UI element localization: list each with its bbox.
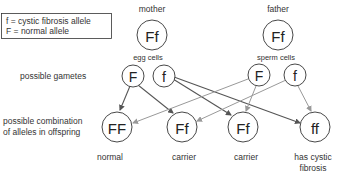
arrow-eggF-to-Ff1 bbox=[138, 85, 173, 113]
offspring-Ff-1-label: carrier bbox=[172, 152, 196, 162]
svg-text:f: f bbox=[293, 68, 297, 84]
svg-text:FF: FF bbox=[108, 120, 126, 137]
mother-node: mother Ff egg cells bbox=[133, 4, 167, 62]
arrow-spermf-to-ff bbox=[298, 86, 311, 111]
legend-box: f = cystic fibrosis allele F = normal al… bbox=[2, 14, 112, 39]
svg-text:f: f bbox=[162, 69, 166, 85]
arrow-eggF-to-FF bbox=[120, 86, 130, 110]
offspring-Ff-2-label: carrier bbox=[234, 152, 258, 162]
sperm-gamete-F: F bbox=[248, 64, 270, 86]
mother-label: mother bbox=[139, 4, 166, 14]
arrow-spermF-to-Ff2 bbox=[246, 86, 256, 111]
mother-genotype: Ff bbox=[145, 28, 159, 45]
father-genotype: Ff bbox=[271, 28, 285, 45]
egg-cells-label: egg cells bbox=[133, 53, 163, 62]
egg-gamete-F: F bbox=[122, 65, 144, 87]
svg-text:F: F bbox=[255, 68, 264, 84]
offspring-Ff-1: Ff carrier bbox=[167, 112, 197, 162]
offspring-Ff-2: Ff carrier bbox=[228, 112, 258, 162]
egg-arrows bbox=[120, 77, 300, 123]
father-node: father Ff sperm cells bbox=[257, 4, 295, 62]
legend-line-dominant: F = normal allele bbox=[6, 26, 69, 36]
offspring-FF: FF normal bbox=[97, 112, 132, 162]
punnett-inheritance-diagram: f = cystic fibrosis allele F = normal al… bbox=[0, 0, 337, 177]
sperm-gamete-f: f bbox=[284, 64, 306, 86]
row-label-offspring-line2: of alleles in offspring bbox=[3, 127, 81, 137]
offspring-ff-label-line2: fibrosis bbox=[300, 163, 327, 173]
row-label-gametes: possible gametes bbox=[20, 71, 86, 81]
offspring-ff: ff has cystic fibrosis bbox=[294, 112, 332, 173]
svg-text:Ff: Ff bbox=[236, 120, 250, 137]
offspring-ff-label-line1: has cystic bbox=[294, 152, 332, 162]
legend-line-recessive: f = cystic fibrosis allele bbox=[6, 16, 91, 26]
svg-text:Ff: Ff bbox=[175, 120, 189, 137]
sperm-cells-label: sperm cells bbox=[257, 53, 295, 62]
svg-text:ff: ff bbox=[311, 120, 320, 137]
offspring-FF-label: normal bbox=[97, 152, 123, 162]
row-label-offspring-line1: possible combination bbox=[3, 116, 83, 126]
svg-text:F: F bbox=[129, 69, 138, 85]
egg-gamete-f: f bbox=[153, 65, 175, 87]
father-label: father bbox=[267, 4, 289, 14]
